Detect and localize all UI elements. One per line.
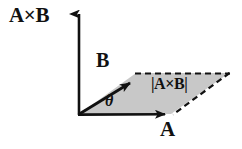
vector-cross-product-figure: A×B B |A×B| θ A bbox=[0, 0, 242, 149]
label-vector-b: B bbox=[96, 50, 109, 70]
label-cross-product-magnitude: |A×B| bbox=[151, 76, 187, 92]
label-angle-theta: θ bbox=[105, 93, 113, 109]
label-vector-a: A bbox=[160, 119, 175, 140]
label-cross-product-axis: A×B bbox=[9, 5, 49, 26]
